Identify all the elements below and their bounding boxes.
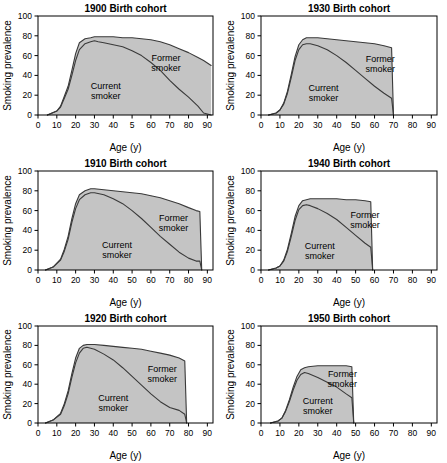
annotation-current-smoker: Currentsmoker [98,393,129,413]
x-tick-label: 30 [313,275,323,285]
y-tick-label: 0 [27,265,32,275]
x-tick-label: 90 [427,120,437,130]
x-tick-label: 60 [146,120,156,130]
x-tick-label: 20 [71,120,81,130]
y-tick-label: 40 [246,70,256,80]
x-tick-label: 90 [427,275,437,285]
cohort-panel-1910: 0102030405060708090020406080100Age (y)Sm… [0,155,223,310]
x-tick-label: 50 [127,275,137,285]
y-axis-label: Smoking prevalence [225,175,236,266]
x-tick-label: 0 [36,120,41,130]
y-tick-label: 60 [23,206,33,216]
x-tick-label: 60 [370,428,380,438]
panel-title: 1910 Birth cohort [84,158,167,169]
y-tick-label: 0 [27,418,32,428]
y-tick-label: 20 [23,90,33,100]
x-tick-label: 40 [332,428,342,438]
x-tick-label: 70 [389,275,399,285]
annotation-current-smoker: Currentsmoker [91,81,122,101]
x-tick-label: 20 [71,275,81,285]
x-tick-label: 10 [275,275,285,285]
x-tick-label: 10 [52,120,62,130]
y-tick-label: 20 [246,245,256,255]
x-tick-label: 80 [184,428,194,438]
x-tick-label: 10 [275,428,285,438]
annotation-former-smoker: Formersmoker [147,364,177,384]
figure-panel-grid: 010203040560708090020406080100Age (y)Smo… [0,0,447,463]
panel-title: 1900 Birth cohort [84,3,167,14]
x-tick-label: 40 [109,275,119,285]
y-tick-label: 20 [23,245,33,255]
y-tick-label: 100 [18,321,32,331]
annotation-former-smoker: Formersmoker [159,213,189,233]
y-tick-label: 60 [246,360,256,370]
x-tick-label: 30 [90,428,100,438]
x-tick-label: 60 [370,275,380,285]
x-axis-label: Age (y) [109,297,141,308]
y-tick-label: 80 [23,186,33,196]
cohort-panel-1950: 0102030405060708090020406080100Age (y)Sm… [223,310,447,463]
x-tick-label: 80 [408,428,418,438]
x-tick-label: 20 [294,120,304,130]
x-tick-label: 30 [90,120,100,130]
x-tick-label: 30 [313,120,323,130]
y-tick-label: 100 [18,166,32,176]
x-tick-label: 20 [294,428,304,438]
annotation-former-smoker: Formersmoker [151,53,181,73]
x-axis-label: Age (y) [109,450,141,461]
x-tick-label: 40 [109,428,119,438]
x-axis-label: Age (y) [333,142,365,153]
y-tick-label: 40 [23,70,33,80]
x-axis-label: Age (y) [333,450,365,461]
x-tick-label: 50 [127,428,137,438]
x-tick-label: 70 [389,428,399,438]
x-tick-label: 0 [36,428,41,438]
annotation-current-smoker: Currentsmoker [102,240,133,260]
cohort-chart-svg: 010203040560708090020406080100Age (y)Smo… [0,0,223,155]
x-tick-label: 0 [259,428,264,438]
x-tick-label: 40 [332,275,342,285]
y-tick-label: 40 [23,379,33,389]
x-tick-label: 50 [351,275,361,285]
x-tick-label: 70 [165,120,175,130]
cohort-panel-1900: 010203040560708090020406080100Age (y)Smo… [0,0,223,155]
y-tick-label: 80 [246,31,256,41]
x-tick-label: 90 [427,428,437,438]
x-tick-label: 20 [71,428,81,438]
cohort-chart-svg: 0102030405060708090020406080100Age (y)Sm… [0,155,223,310]
y-tick-label: 100 [18,11,32,21]
y-axis-label: Smoking prevalence [2,329,13,420]
x-tick-label: 40 [109,120,119,130]
x-axis-label: Age (y) [333,297,365,308]
annotation-former-smoker: Formersmoker [328,369,358,389]
x-tick-label: 0 [259,275,264,285]
annotation-former-smoker: Formersmoker [365,54,395,74]
y-tick-label: 20 [246,90,256,100]
x-tick-label: 70 [165,428,175,438]
x-tick-label: 80 [184,275,194,285]
x-tick-label: 50 [351,428,361,438]
panel-title: 1920 Birth cohort [84,313,167,324]
y-tick-label: 100 [241,11,255,21]
y-tick-label: 80 [23,31,33,41]
y-tick-label: 80 [246,186,256,196]
cohort-chart-svg: 0102030405060708090020406080100Age (y)Sm… [0,310,223,463]
y-tick-label: 0 [250,110,255,120]
y-axis-label: Smoking prevalence [225,20,236,111]
x-tick-label: 60 [370,120,380,130]
y-tick-label: 100 [241,321,255,331]
x-tick-label: 40 [332,120,342,130]
y-tick-label: 100 [241,166,255,176]
x-tick-label: 80 [184,120,194,130]
x-tick-label: 10 [52,428,62,438]
annotation-current-smoker: Currentsmoker [308,83,339,103]
y-tick-label: 20 [23,399,33,409]
y-tick-label: 60 [23,360,33,370]
x-tick-label: 70 [389,120,399,130]
x-tick-label: 5 [130,120,135,130]
y-tick-label: 60 [23,51,33,61]
x-tick-label: 10 [275,120,285,130]
panel-title: 1950 Birth cohort [308,313,391,324]
annotation-current-smoker: Currentsmoker [303,396,334,416]
y-tick-label: 80 [246,340,256,350]
